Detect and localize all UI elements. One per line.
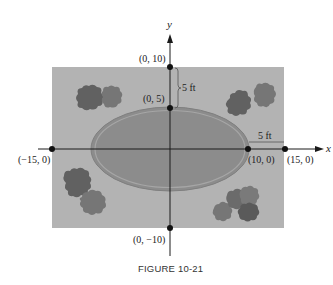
y-axis-label: y <box>166 18 172 30</box>
point-10-0 <box>245 146 251 152</box>
figure-canvas: x y 5 ft 5 ft (0, 10) (0, 5) (−15, 0) (1… <box>0 0 333 285</box>
figure-caption: FIGURE 10-21 <box>138 263 203 274</box>
x-axis-label: x <box>325 142 331 154</box>
dimension-label-vertical: 5 ft <box>182 82 196 93</box>
point-15-0 <box>282 146 288 152</box>
point-label-0-10: (0, 10) <box>139 53 166 65</box>
point-0-5 <box>167 105 173 111</box>
point-0-neg10 <box>167 225 173 231</box>
dimension-label-horizontal: 5 ft <box>258 130 272 141</box>
x-axis-arrow-icon <box>315 146 324 152</box>
y-axis-arrow-icon <box>167 34 173 43</box>
point-label-10-0: (10, 0) <box>248 154 275 166</box>
point-neg15-0 <box>49 146 55 152</box>
point-0-10 <box>167 64 173 70</box>
point-label-0-neg10: (0, −10) <box>133 234 165 246</box>
point-label-neg15-0: (−15, 0) <box>18 154 50 166</box>
point-label-0-5: (0, 5) <box>143 93 165 105</box>
point-label-15-0: (15, 0) <box>287 154 314 166</box>
